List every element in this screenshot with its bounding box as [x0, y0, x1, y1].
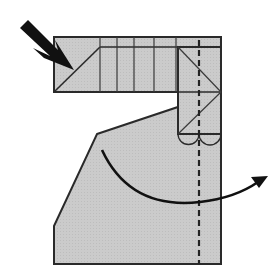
diagram-canvas — [0, 0, 276, 279]
origami-diagram — [0, 0, 276, 279]
